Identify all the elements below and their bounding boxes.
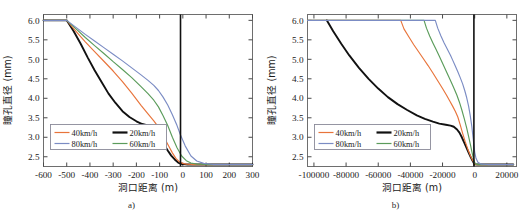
- legend-label-60km-h: 60km/h: [130, 140, 156, 149]
- x-tick-label: 200: [222, 170, 236, 180]
- y-tick-label: 4.5: [28, 74, 40, 84]
- x-tick-label: -40000: [397, 170, 423, 180]
- x-tick-label: -300: [105, 170, 122, 180]
- plot-a-xtick-labels: -600-500-400-300-200-1000100200300: [35, 170, 260, 180]
- plot-b-xtick-labels: -100000-80000-60000-40000-20000020000: [299, 170, 519, 180]
- x-tick-label: -60000: [365, 170, 391, 180]
- y-tick-label: 5.0: [28, 55, 40, 65]
- y-tick-label: 3.0: [28, 132, 40, 142]
- x-tick-label: -400: [82, 170, 99, 180]
- y-tick-label: 6.0: [292, 16, 304, 26]
- x-tick-label: 0: [472, 170, 477, 180]
- y-tick-label: 5.0: [292, 55, 304, 65]
- legend-label-80km-h: 80km/h: [336, 140, 362, 149]
- y-tick-label: 5.5: [292, 35, 304, 45]
- y-tick-label: 3.0: [292, 132, 304, 142]
- figure-container: -600-500-400-300-200-1000100200300 2.53.…: [0, 0, 527, 221]
- plot-b-ytick-labels: 2.53.03.54.04.55.05.56.0: [292, 16, 304, 162]
- legend-label-40km-h: 40km/h: [336, 129, 362, 138]
- plot-a-svg: -600-500-400-300-200-1000100200300 2.53.…: [0, 0, 263, 221]
- plot-b-xlabel: 洞口距离 (m): [382, 182, 442, 193]
- y-tick-label: 4.0: [292, 93, 304, 103]
- x-tick-label: -100000: [299, 170, 330, 180]
- x-tick-label: -200: [128, 170, 145, 180]
- plot-a-ytick-labels: 2.53.03.54.04.55.05.56.0: [28, 16, 40, 162]
- x-tick-label: -600: [35, 170, 52, 180]
- x-tick-label: -100: [151, 170, 168, 180]
- x-tick-label: 100: [199, 170, 213, 180]
- plot-a-xlabel: 洞口距离 (m): [118, 182, 178, 193]
- y-tick-label: 4.0: [28, 93, 40, 103]
- y-tick-label: 4.5: [292, 74, 304, 84]
- plot-b-caption: b): [264, 200, 527, 210]
- legend-label-40km-h: 40km/h: [72, 129, 98, 138]
- chart-panel-a: -600-500-400-300-200-1000100200300 2.53.…: [0, 0, 263, 221]
- legend-label-20km-h: 20km/h: [130, 129, 156, 138]
- legend-label-80km-h: 80km/h: [72, 140, 98, 149]
- x-tick-label: -500: [58, 170, 75, 180]
- x-tick-label: 0: [181, 170, 186, 180]
- legend-label-60km-h: 60km/h: [394, 140, 420, 149]
- plot-b-ylabel: 瞳孔直径 (mm): [266, 55, 277, 124]
- x-tick-label: 300: [246, 170, 260, 180]
- y-tick-label: 5.5: [28, 35, 40, 45]
- legend-label-20km-h: 20km/h: [394, 129, 420, 138]
- y-tick-label: 2.5: [28, 152, 40, 162]
- x-tick-label: -80000: [333, 170, 359, 180]
- chart-panel-b: -100000-80000-60000-40000-20000020000 2.…: [264, 0, 527, 221]
- plot-a-ylabel: 瞳孔直径 (mm): [2, 55, 13, 124]
- x-tick-label: -20000: [430, 170, 456, 180]
- y-tick-label: 6.0: [28, 16, 40, 26]
- y-tick-label: 2.5: [292, 152, 304, 162]
- y-tick-label: 3.5: [292, 113, 304, 123]
- plot-a-legend: 40km/h20km/h80km/h60km/h: [51, 125, 167, 150]
- plot-b-legend: 40km/h20km/h80km/h60km/h: [315, 125, 431, 150]
- plot-a-caption: a): [0, 200, 263, 210]
- y-tick-label: 3.5: [28, 113, 40, 123]
- x-tick-label: 20000: [495, 170, 518, 180]
- plot-b-svg: -100000-80000-60000-40000-20000020000 2.…: [264, 0, 527, 221]
